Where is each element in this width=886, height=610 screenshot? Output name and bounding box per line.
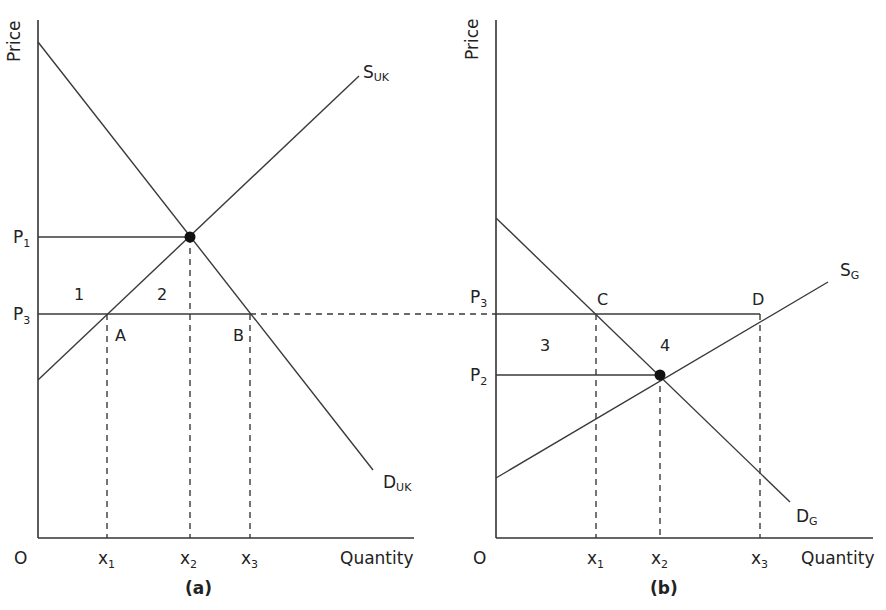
price-axis-label-b: Price bbox=[462, 19, 482, 60]
supply-label-uk: SUK bbox=[363, 62, 390, 84]
price-label-p3-b: P3 bbox=[470, 287, 487, 310]
equilibrium-point-b bbox=[655, 370, 666, 381]
origin-label-a: O bbox=[14, 548, 27, 568]
area-1: 1 bbox=[74, 285, 84, 304]
panel-a: Price SUK DUK P1 P3 A B 1 2 O x1 x2 x3 Q… bbox=[4, 20, 496, 598]
price-label-p2: P2 bbox=[470, 365, 487, 388]
quantity-axis-label-a: Quantity bbox=[340, 548, 413, 568]
demand-curve-uk bbox=[38, 42, 373, 470]
quantity-label-x1-b: x1 bbox=[587, 548, 604, 571]
price-axis-label-a: Price bbox=[4, 21, 24, 62]
quantity-axis-label-b: Quantity bbox=[801, 548, 874, 568]
panel-b: Price SG DG P3 P2 C D 3 4 O x1 x2 x3 Qua… bbox=[462, 19, 874, 598]
demand-curve-g bbox=[496, 218, 790, 502]
demand-label-uk: DUK bbox=[383, 472, 412, 494]
price-label-p3-a: P3 bbox=[13, 304, 30, 327]
quantity-label-x2-b: x2 bbox=[651, 548, 668, 571]
demand-label-g: DG bbox=[796, 506, 818, 528]
area-2: 2 bbox=[157, 285, 167, 304]
quantity-label-x2-a: x2 bbox=[180, 548, 197, 571]
point-d: D bbox=[752, 290, 764, 309]
caption-b: (b) bbox=[650, 578, 678, 598]
supply-label-g: SG bbox=[840, 260, 859, 282]
supply-curve-uk bbox=[38, 76, 359, 380]
area-3: 3 bbox=[540, 336, 550, 355]
quantity-label-x3-b: x3 bbox=[751, 548, 768, 571]
point-a: A bbox=[115, 326, 126, 345]
quantity-label-x1-a: x1 bbox=[98, 548, 115, 571]
trade-diagram: Price SUK DUK P1 P3 A B 1 2 O x1 x2 x3 Q… bbox=[0, 0, 886, 610]
area-4: 4 bbox=[660, 336, 670, 355]
quantity-label-x3-a: x3 bbox=[241, 548, 258, 571]
point-b: B bbox=[233, 326, 244, 345]
point-c: C bbox=[597, 290, 608, 309]
price-label-p1: P1 bbox=[13, 227, 30, 250]
equilibrium-point-a bbox=[185, 232, 196, 243]
caption-a: (a) bbox=[185, 578, 212, 598]
origin-label-b: O bbox=[473, 548, 486, 568]
